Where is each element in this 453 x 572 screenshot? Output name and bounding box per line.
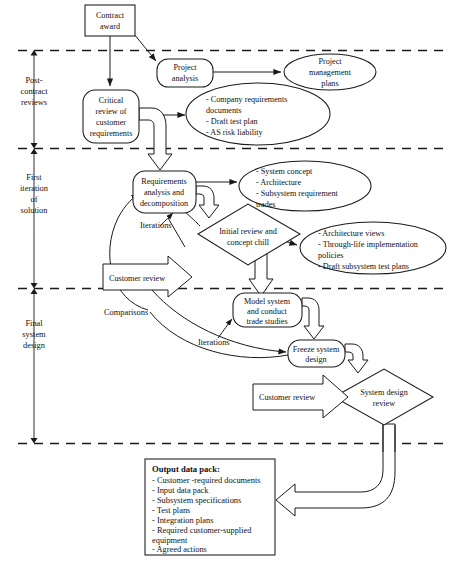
node-customer-review-2-label: Customer review (259, 393, 315, 402)
node-pm-plans-line3: plans (321, 79, 338, 88)
node-sdr-line1: System design (360, 388, 408, 397)
node-freeze-system-design[interactable]: Freeze system design (288, 340, 345, 367)
node-arch-views-line2: - Through-life implementation (318, 240, 418, 249)
output-data-pack-title: Output data pack: (152, 464, 220, 474)
edge-iterations-2 (218, 319, 232, 338)
node-critical-review-line1: Critical (99, 96, 124, 105)
phase-label-final-design-line1: Final (25, 319, 43, 328)
node-critical-review-line3: customer (96, 118, 126, 127)
phase-label-final-design: Final system design (22, 319, 46, 350)
output-data-pack-item-7: - Agreed actions (152, 545, 207, 554)
phase-label-final-design-line2: system (22, 330, 46, 339)
node-initial-review-line1: Initial review and (219, 227, 277, 236)
node-project-analysis-line2: analysis (172, 74, 198, 83)
phase-label-first-iteration-line3: of (31, 195, 38, 204)
node-company-req-line1: - Company requirements (206, 95, 287, 104)
node-system-concept[interactable]: - System concept - Architecture - Subsys… (239, 161, 371, 211)
phase-label-post-contract: Post- contract reviews (21, 76, 49, 107)
node-contract-award[interactable]: Contract award (85, 5, 135, 36)
edge-label-comparisons: Comparisons (104, 308, 148, 317)
node-arch-views-line1: - Architecture views (318, 229, 384, 238)
node-system-concept-line4: trades (256, 200, 276, 209)
node-sdr-line2: review (373, 399, 395, 408)
phase-axes-group (31, 50, 38, 444)
edge-reqanalysis-to-initialreview (185, 212, 200, 226)
node-pm-plans-line1: Project (318, 57, 342, 66)
diagram-canvas: Post- contract reviews First iteration o… (0, 0, 453, 572)
node-req-analysis-line3: decomposition (140, 199, 188, 208)
output-data-pack-item-6: equipment (152, 536, 188, 545)
node-arch-views-line3: policies (318, 251, 343, 260)
node-model-system-line2: and conduct (247, 307, 288, 316)
output-data-pack-box[interactable]: Output data pack: - Customer -required d… (145, 459, 275, 555)
node-company-req-line2: documents (206, 106, 241, 115)
node-contract-award-line1: Contract (96, 11, 125, 20)
node-system-design-review[interactable]: System design review (334, 369, 433, 425)
node-system-design-review-shape[interactable] (334, 369, 433, 425)
node-system-concept-line1: - System concept (256, 167, 313, 176)
node-req-analysis-line1: Requirements (141, 177, 186, 186)
node-arch-views-line4: - Draft subsystem test plans (318, 262, 409, 271)
node-system-concept-line3: - Subsystem requirement (256, 189, 339, 198)
output-data-pack-item-3: - Test plans (152, 506, 190, 515)
node-model-system-line1: Model system (244, 297, 291, 306)
edge-label-iterations-2: Iterations (198, 338, 230, 347)
output-data-pack-item-4: - Integration plans (152, 516, 213, 525)
edge-label-iterations-1: Iterations (140, 221, 172, 230)
output-data-pack-item-1: - Input data pack (152, 486, 209, 495)
node-model-system-line3: trade studies (246, 317, 287, 326)
phase-label-post-contract-line1: Post- (25, 76, 42, 85)
node-freeze-line2: design (305, 355, 326, 364)
phase-label-first-iteration-line1: First (26, 173, 42, 182)
phase-label-first-iteration-line4: solution (21, 206, 49, 215)
node-requirements-analysis[interactable]: Requirements analysis and decomposition (133, 171, 196, 213)
node-pm-plans-line2: management (309, 68, 352, 77)
node-project-analysis[interactable]: Project analysis (157, 59, 213, 87)
node-company-req-line4: - AS risk liability (206, 128, 264, 137)
phase-label-post-contract-line2: contract (21, 87, 49, 96)
diagram-svg: Post- contract reviews First iteration o… (0, 0, 453, 572)
output-data-pack-item-0: - Customer -required documents (152, 476, 261, 485)
node-customer-review-1[interactable]: Customer review (103, 256, 192, 297)
phase-label-post-contract-line3: reviews (21, 98, 47, 107)
node-critical-review[interactable]: Critical review of customer requirements (83, 90, 139, 143)
output-data-pack-item-5: - Required customer-supplied (152, 526, 252, 535)
edge-contract-to-project-analysis (134, 34, 156, 61)
hollow-arrow-model-to-freeze (302, 298, 324, 339)
node-company-requirements[interactable]: - Company requirements documents - Draft… (186, 83, 330, 145)
node-req-analysis-line2: analysis and (144, 188, 184, 197)
hollow-arrow-sdr-to-output (276, 424, 395, 516)
hollow-arrow-reqanalysis-to-initialreview (196, 186, 219, 218)
phase-label-final-design-line3: design (23, 341, 46, 350)
output-data-pack-item-2: - Subsystem specifications (152, 496, 241, 505)
node-critical-review-line2: review of (95, 107, 126, 116)
node-contract-award-line2: award (100, 22, 120, 31)
node-project-management-plans[interactable]: Project management plans (284, 54, 376, 90)
node-project-analysis-line1: Project (173, 63, 197, 72)
node-customer-review-2[interactable]: Customer review (253, 375, 348, 418)
node-company-req-line3: - Draft test plan (206, 117, 258, 126)
hollow-arrow-freeze-to-sdr (345, 344, 368, 373)
node-contract-award-shape[interactable] (85, 5, 135, 36)
node-model-system[interactable]: Model system and conduct trade studies (233, 293, 302, 327)
node-customer-review-1-label: Customer review (109, 274, 165, 283)
node-architecture-views[interactable]: - Architecture views - Through-life impl… (300, 222, 446, 274)
node-initial-review-line2: concept chill (227, 238, 270, 247)
node-freeze-line1: Freeze system (293, 345, 340, 354)
node-system-concept-line2: - Architecture (256, 178, 302, 187)
hollow-arrow-critical-to-reqanalysis (139, 108, 172, 170)
phase-label-first-iteration-line2: iteration (20, 184, 49, 193)
node-critical-review-line4: requirements (90, 129, 133, 138)
